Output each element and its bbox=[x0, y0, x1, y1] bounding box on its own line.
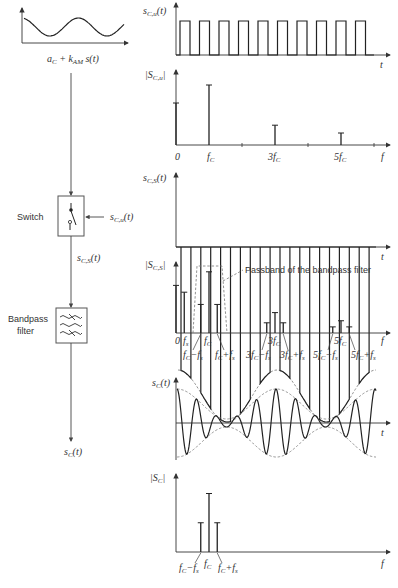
tick-label-fc: fC bbox=[204, 558, 212, 571]
tick-label-fc-plus-fs: fC+fs bbox=[218, 562, 238, 575]
tick-label-3fc: 3fC bbox=[267, 151, 281, 164]
tick-label-5fc-plus-fs: 5fC+fs bbox=[351, 349, 376, 362]
tick-label-fc-plus-fs: fC+fs bbox=[215, 349, 235, 362]
output-waveform bbox=[177, 389, 376, 454]
tick-label-3fc-minus-fs: 3fC−fs bbox=[245, 349, 271, 362]
panel-output-time: sC(t) t bbox=[152, 377, 390, 460]
square-waveform bbox=[176, 21, 374, 55]
sampled-ylabel: sC,S(t) bbox=[143, 172, 167, 185]
label-leader bbox=[349, 334, 355, 350]
square-xlabel: t bbox=[380, 59, 383, 70]
switch-block[interactable] bbox=[58, 196, 84, 236]
panel-spectrum-u: |SC,u| 0 fC 3fC 5fC f bbox=[145, 69, 390, 164]
input-label: aC + kAM s(t) bbox=[47, 53, 99, 66]
spec-u-xlabel: f bbox=[381, 151, 385, 162]
tick-label-0: 0 bbox=[175, 335, 180, 346]
output-xlabel: t bbox=[381, 427, 384, 438]
diagram-canvas: aC + kAM s(t) Switch sC,u(t) sC,S(t) Ban… bbox=[0, 0, 398, 588]
tick-label-3fc-plus-fs: 3fC+fs bbox=[279, 349, 305, 362]
passband-outline bbox=[193, 266, 227, 333]
tick-label-fc-minus-fs: fC−fs bbox=[183, 349, 203, 362]
tick-label-fc-minus-fs: fC−fs bbox=[179, 562, 199, 575]
switch-label: Switch bbox=[17, 212, 44, 222]
panel-spectrum-s: Passband of the bandpass filter |SC,S| 0… bbox=[145, 259, 390, 362]
tick-label-3fc: 3fC bbox=[267, 335, 281, 348]
filter-label-line1: Bandpass bbox=[8, 314, 49, 324]
out-spec-ylabel: |SC| bbox=[150, 472, 165, 485]
panel-square-wave: sC,u(t) t bbox=[143, 3, 390, 70]
square-ylabel: sC,u(t) bbox=[143, 5, 167, 18]
sampled-envelope bbox=[178, 370, 376, 422]
label-leader bbox=[193, 334, 201, 350]
panel-output-spectrum: |SC| fC−fs fC fC+fs f bbox=[150, 472, 390, 575]
label-leader bbox=[262, 334, 267, 350]
input-waveform bbox=[24, 18, 124, 36]
label-leader bbox=[328, 334, 333, 350]
tick-label-5fc: 5fC bbox=[334, 335, 347, 348]
tick-label-fc: fC bbox=[207, 151, 215, 164]
tick-label-0: 0 bbox=[175, 151, 180, 162]
sampled-xlabel: t bbox=[381, 251, 384, 262]
spec-s-xlabel: f bbox=[381, 335, 385, 346]
output-label: sC(t) bbox=[64, 446, 83, 459]
tick-label-fs: fs bbox=[183, 335, 189, 348]
passband-annotation: Passband of the bandpass filter bbox=[245, 265, 371, 275]
tick-label-5fc-minus-fs: 5fC−fs bbox=[313, 349, 338, 362]
filter-label-line2: filter bbox=[17, 326, 34, 336]
label-leader bbox=[283, 334, 288, 350]
spec-u-ylabel: |SC,u| bbox=[145, 69, 165, 82]
out-spec-xlabel: f bbox=[381, 558, 385, 569]
panel-sampled: sC,S(t) t bbox=[143, 172, 390, 422]
switch-output-label: sC,S(t) bbox=[77, 252, 101, 265]
spec-s-ylabel: |SC,S| bbox=[145, 259, 165, 272]
tick-label-5fc: 5fC bbox=[334, 151, 347, 164]
switch-control-label: sC,u(t) bbox=[110, 211, 134, 224]
input-signal-plot bbox=[22, 8, 128, 43]
output-ylabel: sC(t) bbox=[152, 377, 171, 390]
output-envelope-bottom bbox=[177, 427, 376, 457]
